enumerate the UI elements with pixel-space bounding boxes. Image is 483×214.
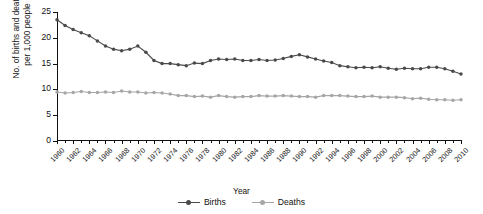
x-tick-label-1980: 1980 [210,146,228,164]
data-point [290,55,294,59]
data-point [209,59,213,63]
data-point [185,64,189,68]
x-tick-label-1978: 1978 [194,146,212,164]
data-point [96,91,100,95]
data-point [395,68,399,72]
data-point [387,95,391,99]
data-point [265,59,269,63]
data-point [201,94,205,98]
data-point [112,47,116,51]
data-point [330,94,334,98]
data-point [120,89,124,93]
data-point [273,58,277,62]
x-tick-label-1976: 1976 [178,146,196,164]
data-point [249,95,253,99]
x-axis-label: Year [0,186,483,196]
data-point [136,90,140,94]
data-point [257,94,261,98]
data-point [427,65,431,69]
data-point [378,65,382,69]
data-point [55,90,59,94]
data-point [427,97,431,101]
data-point [378,95,382,99]
data-point [298,53,302,57]
legend-marker-icon [178,199,200,206]
x-tick-label-1966: 1966 [97,146,115,164]
x-tick-label-1962: 1962 [65,146,83,164]
data-point [290,94,294,98]
series-births [55,18,463,76]
x-tick-label-2008: 2008 [436,146,454,164]
data-point [241,95,245,99]
data-series-layer [57,12,461,141]
y-tick-label-0: 0 [46,135,51,145]
data-point [346,65,350,69]
data-point [63,24,67,28]
data-point [168,92,172,96]
y-tick-label-20: 20 [41,32,51,42]
x-tick-label-1994: 1994 [323,146,341,164]
data-point [176,63,180,67]
data-point [354,66,358,70]
data-point [241,59,245,63]
data-point [233,95,237,99]
x-tick-label-1964: 1964 [81,146,99,164]
data-point [362,65,366,69]
series-deaths [55,89,463,102]
x-tick-label-1972: 1972 [145,146,163,164]
data-point [233,57,237,61]
data-point [136,44,140,48]
x-tick-label-1990: 1990 [291,146,309,164]
data-point [314,57,318,61]
data-point [265,94,269,98]
data-point [338,94,342,98]
data-point [88,34,92,38]
data-point [249,59,253,63]
x-tick-label-1998: 1998 [355,146,373,164]
data-point [104,90,108,94]
chart-figure: No. of births and deaths per 1,000 peopl… [0,0,483,214]
chart-legend: BirthsDeaths [0,197,483,207]
x-tick-label-1960: 1960 [48,146,66,164]
x-tick-label-1988: 1988 [275,146,293,164]
data-point [370,94,374,98]
data-point [451,98,455,102]
data-point [79,90,83,94]
x-tick-label-1984: 1984 [242,146,260,164]
data-point [443,98,447,102]
data-point [306,55,310,59]
x-tick-label-2002: 2002 [388,146,406,164]
x-tick [461,140,462,144]
data-point [185,94,189,98]
data-point [443,67,447,71]
data-point [435,98,439,102]
x-tick-label-1996: 1996 [339,146,357,164]
x-tick-label-1974: 1974 [161,146,179,164]
x-tick-label-2006: 2006 [420,146,438,164]
data-point [403,66,407,70]
data-point [225,95,229,99]
y-axis-label-line1: No. of births and deaths [11,0,22,100]
y-axis-label-line2: per 1,000 people [21,0,32,100]
x-tick-label-2010: 2010 [452,146,470,164]
series-line [57,20,461,74]
plot-area: 0510152025 19601962196419661968197019721… [57,12,461,141]
data-point [63,91,67,95]
data-point [257,58,261,62]
data-point [395,95,399,99]
data-point [306,95,310,99]
data-point [88,91,92,95]
data-point [273,94,277,98]
data-point [112,91,116,95]
legend-item-births: Births [178,197,226,207]
data-point [71,91,75,95]
data-point [160,91,164,95]
data-point [104,44,108,48]
data-point [419,96,423,100]
data-point [152,91,156,95]
data-point [160,62,164,66]
y-axis-label: No. of births and deaths per 1,000 peopl… [11,0,32,100]
legend-label: Deaths [278,197,305,207]
data-point [435,65,439,69]
x-tick-label-1986: 1986 [258,146,276,164]
